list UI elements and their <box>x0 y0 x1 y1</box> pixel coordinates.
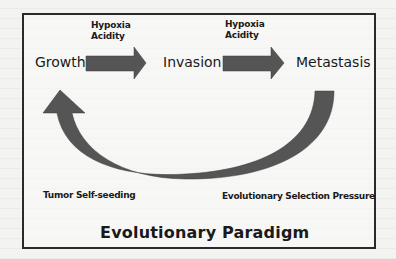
diagram-title: Evolutionary Paradigm <box>100 223 309 242</box>
stage-metastasis: Metastasis <box>296 54 371 70</box>
stage-invasion: Invasion <box>163 54 222 70</box>
condition-acidity: Acidity <box>91 31 131 42</box>
transition-2-conditions: Hypoxia Acidity <box>225 19 265 41</box>
condition-hypoxia: Hypoxia <box>91 20 131 31</box>
caption-tumor-self-seeding: Tumor Self-seeding <box>43 190 135 200</box>
caption-evolutionary-selection-pressure: Evolutionary Selection Pressure <box>222 191 375 201</box>
arrows-layer <box>0 0 396 259</box>
stage-growth: Growth <box>35 54 86 70</box>
arrow-right-icon <box>86 47 146 79</box>
condition-hypoxia: Hypoxia <box>225 19 265 30</box>
curved-feedback-arrow-icon <box>43 90 334 179</box>
condition-acidity: Acidity <box>225 30 265 41</box>
transition-1-conditions: Hypoxia Acidity <box>91 20 131 42</box>
arrow-right-icon <box>223 47 284 79</box>
